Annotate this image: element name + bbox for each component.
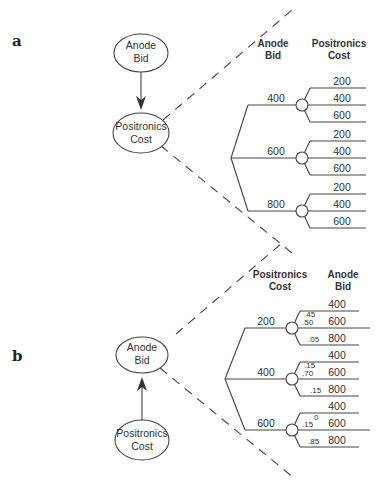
chance-node-icon xyxy=(296,205,308,217)
chance-node-icon xyxy=(286,322,298,334)
anode-bid-label-1: Anode xyxy=(126,39,157,51)
branch-800: 800 200 400 600 xyxy=(248,181,366,228)
chance-node-icon xyxy=(286,424,298,436)
outcome-label: 800 xyxy=(328,383,346,395)
panel-b: b Anode Bid Positronics Cost Positronics… xyxy=(12,243,370,478)
header-positronics-cost-2: Cost xyxy=(328,50,351,61)
chance-node-icon xyxy=(296,99,308,111)
branch-200: 200 .45 .50 .05 400 600 800 xyxy=(245,298,370,345)
branch-600: 600 200 400 600 xyxy=(267,128,366,175)
influence-diagram-b: Anode Bid Positronics Cost xyxy=(115,337,169,460)
branch-label: 800 xyxy=(267,198,285,210)
probability-label: .70 xyxy=(302,369,314,378)
outcome-label: 400 xyxy=(328,349,346,361)
anode-bid-label-2: Bid xyxy=(133,52,148,64)
decision-tree-b: 200 .45 .50 .05 400 600 800 400 .15 xyxy=(225,298,370,447)
branch-label: 600 xyxy=(267,145,285,157)
chance-node-icon xyxy=(296,152,308,164)
header-anode-bid-2: Bid xyxy=(335,281,351,292)
header-positronics-cost-1: Positronics xyxy=(312,38,367,49)
outcome-label: 400 xyxy=(333,145,351,157)
branch-label: 600 xyxy=(257,417,275,429)
influence-diagram-a: Anode Bid Positronics Cost xyxy=(113,34,169,153)
header-positronics-cost-2: Cost xyxy=(269,281,292,292)
panel-a: a Anode Bid Positronics Cost Anode Bid P… xyxy=(12,10,367,253)
probability-label: .15 xyxy=(310,386,322,395)
probability-label: .15 xyxy=(302,420,314,429)
positronics-cost-label-1: Positronics xyxy=(116,427,167,439)
outcome-label: 200 xyxy=(333,181,351,193)
header-anode-bid-2: Bid xyxy=(265,50,281,61)
outcome-label: 400 xyxy=(328,400,346,412)
outcome-label: 600 xyxy=(328,417,346,429)
outcome-label: 800 xyxy=(328,434,346,446)
outcome-label: 400 xyxy=(328,298,346,310)
outcome-label: 400 xyxy=(333,198,351,210)
outcome-label: 800 xyxy=(328,332,346,344)
outcome-label: 600 xyxy=(328,366,346,378)
header-anode-bid-1: Anode xyxy=(327,269,359,280)
outcome-label: 200 xyxy=(333,75,351,87)
panel-label-b: b xyxy=(12,347,23,365)
outcome-label: 600 xyxy=(333,109,351,121)
positronics-cost-label-2: Cost xyxy=(131,440,153,452)
positronics-cost-label-2: Cost xyxy=(130,133,152,145)
decision-diagram: a Anode Bid Positronics Cost Anode Bid P… xyxy=(0,0,380,493)
outcome-label: 600 xyxy=(328,315,346,327)
chance-node-icon xyxy=(286,373,298,385)
outcome-label: 600 xyxy=(333,215,351,227)
header-anode-bid-1: Anode xyxy=(257,38,289,49)
probability-label: .05 xyxy=(308,335,320,344)
outcome-label: 400 xyxy=(333,92,351,104)
branch-label: 200 xyxy=(257,315,275,327)
branch-label: 400 xyxy=(267,92,285,104)
anode-bid-label-2: Bid xyxy=(134,354,149,366)
header-positronics-cost-1: Positronics xyxy=(253,269,308,280)
branch-600: 600 0 .15 .85 400 600 800 xyxy=(245,400,370,447)
branch-400: 400 200 400 600 xyxy=(248,75,366,122)
outcome-label: 200 xyxy=(333,128,351,140)
decision-tree-a: 400 200 400 600 600 200 400 600 xyxy=(231,75,366,228)
probability-label: 0 xyxy=(314,413,319,422)
branch-400: 400 .15 .70 .15 400 600 800 xyxy=(257,349,359,396)
branch-label: 400 xyxy=(257,366,275,378)
outcome-label: 600 xyxy=(333,162,351,174)
anode-bid-label-1: Anode xyxy=(127,341,158,353)
panel-label-a: a xyxy=(12,32,22,50)
probability-label: .85 xyxy=(308,437,320,446)
positronics-cost-label-1: Positronics xyxy=(115,120,166,132)
probability-label: .50 xyxy=(302,318,314,327)
